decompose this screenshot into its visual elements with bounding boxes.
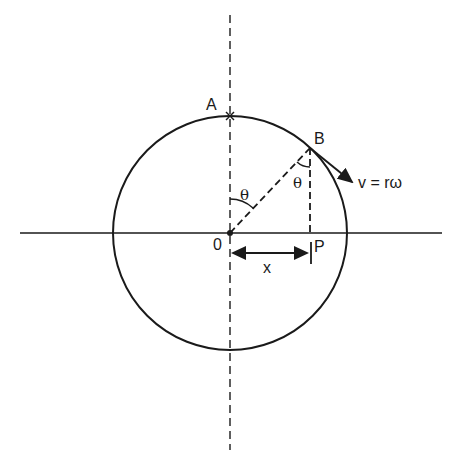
displacement-arrow-left-head (231, 246, 246, 260)
origin-dot (227, 230, 233, 236)
label-theta-b: θ (293, 174, 302, 192)
label-a: A (206, 96, 217, 113)
label-b: B (314, 130, 325, 147)
label-origin: 0 (213, 236, 222, 253)
velocity-arrow (310, 148, 352, 182)
label-p: P (314, 238, 325, 255)
label-x: x (263, 259, 271, 276)
displacement-arrow-right-head (294, 246, 309, 260)
label-theta-center: θ (240, 186, 249, 204)
angle-arc-b (297, 162, 310, 167)
circle-motion-diagram: A B 0 P x θ θ v = rω (0, 0, 452, 475)
label-velocity: v = rω (358, 174, 402, 191)
